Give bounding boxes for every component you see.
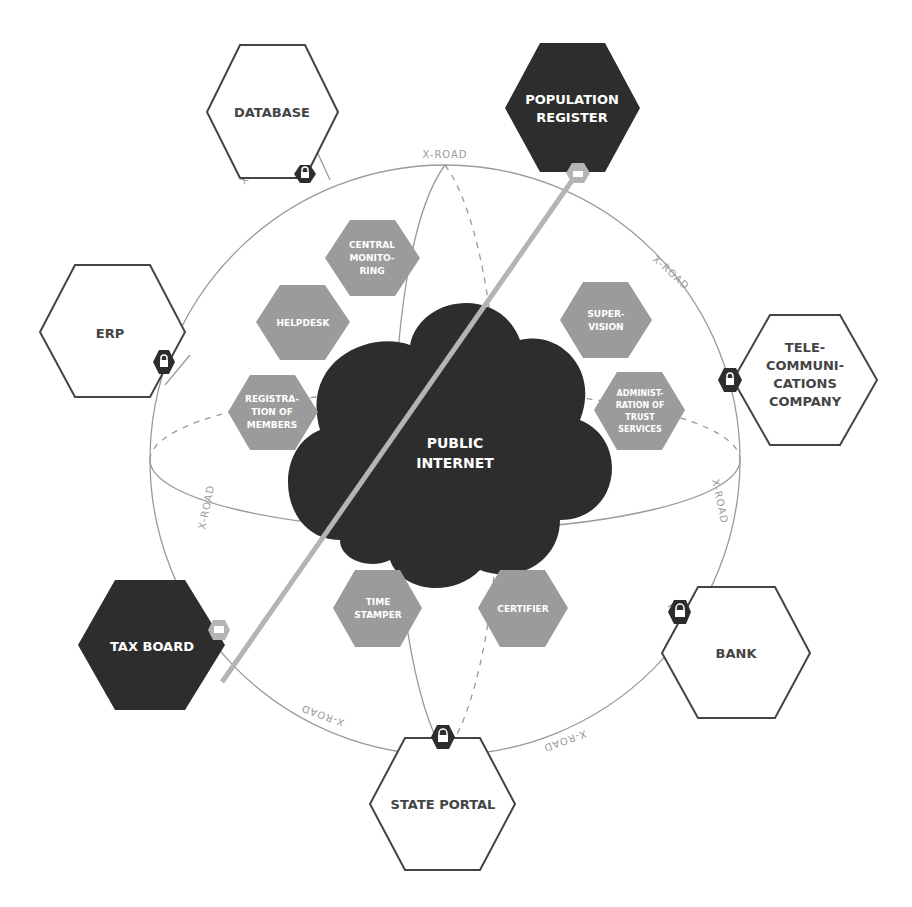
svg-text:HELPDESK: HELPDESK bbox=[276, 318, 330, 328]
service-trust-admin[interactable]: ADMINIST- RATION OF TRUST SERVICES bbox=[594, 372, 685, 450]
svg-text:RING: RING bbox=[359, 266, 384, 276]
node-bank[interactable]: BANK bbox=[662, 587, 810, 718]
svg-text:COMPANY: COMPANY bbox=[769, 394, 842, 409]
svg-text:CENTRAL: CENTRAL bbox=[349, 240, 395, 250]
svg-text:ERP: ERP bbox=[96, 326, 124, 341]
node-tax-board[interactable]: TAX BOARD bbox=[78, 580, 230, 710]
svg-text:STATE PORTAL: STATE PORTAL bbox=[391, 797, 496, 812]
road-label-right: X-ROAD bbox=[710, 478, 730, 524]
svg-text:MEMBERS: MEMBERS bbox=[247, 420, 297, 430]
road-label-top: X-ROAD bbox=[422, 149, 467, 160]
svg-text:VISION: VISION bbox=[588, 322, 623, 332]
x-road-diagram: X-ROAD X-ROAD X-ROAD X-ROAD X-ROAD X-ROA… bbox=[0, 0, 912, 907]
svg-text:ADMINIST-: ADMINIST- bbox=[617, 389, 664, 398]
road-label-top-right: X-ROAD bbox=[651, 253, 692, 291]
svg-text:BANK: BANK bbox=[716, 646, 758, 661]
svg-text:CATIONS: CATIONS bbox=[773, 376, 837, 391]
svg-text:POPULATION: POPULATION bbox=[525, 92, 619, 107]
node-database[interactable]: DATABASE bbox=[207, 45, 338, 183]
node-erp[interactable]: ERP bbox=[40, 265, 185, 397]
svg-text:MONITO-: MONITO- bbox=[349, 253, 394, 263]
svg-text:SUPER-: SUPER- bbox=[587, 309, 624, 319]
svg-text:REGISTRA-: REGISTRA- bbox=[245, 394, 299, 404]
svg-text:STAMPER: STAMPER bbox=[354, 610, 402, 620]
svg-text:DATABASE: DATABASE bbox=[234, 105, 310, 120]
svg-text:COMMUNI-: COMMUNI- bbox=[766, 358, 844, 373]
svg-text:RATION OF: RATION OF bbox=[616, 401, 665, 410]
svg-text:SERVICES: SERVICES bbox=[618, 425, 662, 434]
service-registration[interactable]: REGISTRA- TION OF MEMBERS bbox=[228, 375, 318, 450]
road-label-bottom-left: X-ROAD bbox=[299, 703, 345, 729]
svg-text:REGISTER: REGISTER bbox=[536, 110, 608, 125]
node-population-register[interactable]: POPULATION REGISTER bbox=[505, 43, 640, 183]
road-label-left: X-ROAD bbox=[196, 484, 216, 530]
cloud-label-line2: INTERNET bbox=[416, 455, 494, 471]
svg-text:TAX BOARD: TAX BOARD bbox=[110, 639, 194, 654]
service-certifier[interactable]: CERTIFIER bbox=[478, 570, 568, 647]
service-supervision[interactable]: SUPER- VISION bbox=[560, 282, 652, 358]
svg-text:TIME: TIME bbox=[366, 597, 391, 607]
service-helpdesk[interactable]: HELPDESK bbox=[256, 285, 350, 360]
node-telecom[interactable]: TELE- COMMUNI- CATIONS COMPANY bbox=[718, 315, 877, 445]
road-label-bottom-right: X-ROAD bbox=[542, 728, 588, 754]
svg-text:TRUST: TRUST bbox=[625, 413, 655, 422]
node-state-portal[interactable]: STATE PORTAL bbox=[370, 725, 515, 870]
public-internet-cloud: PUBLIC INTERNET bbox=[288, 303, 612, 588]
svg-text:TION OF: TION OF bbox=[251, 407, 293, 417]
cloud-label-line1: PUBLIC bbox=[427, 435, 484, 451]
svg-text:TELE-: TELE- bbox=[785, 340, 825, 355]
svg-text:CERTIFIER: CERTIFIER bbox=[497, 604, 548, 614]
